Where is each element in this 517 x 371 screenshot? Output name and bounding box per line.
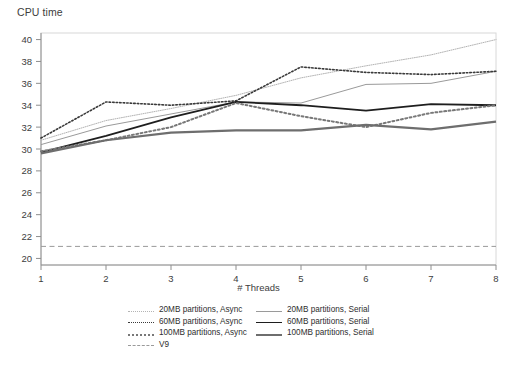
y-axis-title: CPU time <box>17 6 63 18</box>
legend-item-label: 60MB partitions, Serial <box>287 318 369 326</box>
svg-text:38: 38 <box>21 56 32 67</box>
svg-text:30: 30 <box>21 144 32 155</box>
legend-swatch-icon <box>256 306 282 315</box>
plot-area: 4038363432302826242220 12345678 <box>0 0 517 300</box>
legend-swatch-icon <box>256 318 282 327</box>
legend-item-label: V9 <box>159 341 169 349</box>
svg-text:40: 40 <box>21 34 32 45</box>
series-line-5 <box>41 122 496 154</box>
svg-text:26: 26 <box>21 187 32 198</box>
cpu-time-line-chart: CPU time 4038363432302826242220 12345678… <box>0 0 517 371</box>
x-axis-title: # Threads <box>0 282 517 293</box>
svg-text:34: 34 <box>21 100 32 111</box>
chart-legend: 20MB partitions, Async20MB partitions, S… <box>128 306 428 350</box>
legend-item-label: 100MB partitions, Serial <box>287 329 374 337</box>
legend-item: 60MB partitions, Serial <box>256 318 428 327</box>
legend-item-label: 60MB partitions, Async <box>159 318 242 326</box>
svg-text:20: 20 <box>21 253 32 264</box>
legend-item: 100MB partitions, Serial <box>256 329 428 338</box>
svg-text:32: 32 <box>21 122 32 133</box>
svg-text:24: 24 <box>21 209 32 220</box>
legend-item-label: 100MB partitions, Async <box>159 329 247 337</box>
legend-item-label: 20MB partitions, Async <box>159 306 242 314</box>
legend-swatch-icon <box>128 318 154 327</box>
legend-item-label: 20MB partitions, Serial <box>287 306 369 314</box>
legend-swatch-icon <box>128 329 154 338</box>
series-line-4 <box>41 103 496 151</box>
legend-item: V9 <box>128 341 256 350</box>
legend-swatch-icon <box>128 341 154 350</box>
series-line-1 <box>41 71 496 144</box>
svg-text:22: 22 <box>21 231 32 242</box>
legend-swatch-icon <box>128 306 154 315</box>
legend-item: 20MB partitions, Async <box>128 306 256 315</box>
svg-text:36: 36 <box>21 78 32 89</box>
legend-swatch-icon <box>256 329 282 338</box>
legend-item: 100MB partitions, Async <box>128 329 256 338</box>
plot-frame <box>41 33 496 265</box>
y-axis-ticks: 4038363432302826242220 <box>21 34 41 264</box>
legend-item: 20MB partitions, Serial <box>256 306 428 315</box>
legend-item: 60MB partitions, Async <box>128 318 256 327</box>
svg-text:28: 28 <box>21 165 32 176</box>
data-series-group <box>41 40 496 247</box>
